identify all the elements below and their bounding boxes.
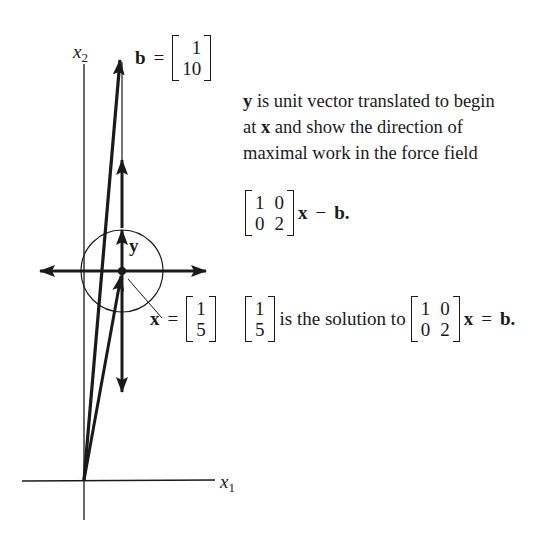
description-line-1: y is unit vector translated to begin [243,88,543,114]
b-component-1: 1 [182,37,201,58]
description-line-2: at x and show the direction of [243,114,543,140]
line2-text: and show the direction of [270,117,463,137]
x-symbol: x [150,308,160,330]
force-field-expression: 10 02 x − b. [245,190,350,236]
solution-text: is the solution to [280,308,406,330]
period: . [345,202,350,224]
y-symbol: y [243,91,252,111]
solution-component-1: 1 [255,298,265,319]
x-symbol: x [261,117,270,137]
b-symbol: b [500,308,511,330]
line1-text: is unit vector translated to begin [252,91,495,111]
solution-matrix: 10 02 [411,296,460,342]
equals-sign: = [154,47,165,69]
matrix-cell: 1 [255,192,265,213]
matrix-cell: 0 [255,213,265,234]
vector-y-label: y [129,236,139,255]
x2-axis-label: x2 [73,42,88,64]
x-definition: x = 1 5 [150,296,216,342]
x1-axis-label: x1 [220,472,235,494]
b-definition: b = 1 10 [135,35,211,81]
b-column-vector: 1 10 [172,35,211,81]
matrix-cell: 0 [275,192,285,213]
minus-sign: − [316,202,327,224]
description-line-3: maximal work in the force field [243,140,543,166]
x-column-vector: 1 5 [186,296,216,342]
solution-component-2: 5 [255,319,265,340]
force-field-matrix: 10 02 [245,190,294,236]
x-component-2: 5 [196,319,206,340]
matrix-cell: 1 [421,298,431,319]
x-symbol: x [298,202,308,224]
x-symbol: x [464,308,474,330]
period: . [510,308,515,330]
matrix-cell: 2 [440,319,450,340]
b-component-2: 10 [182,58,201,79]
x1-label-subscript: 1 [228,480,235,495]
solution-statement: 1 5 is the solution to 10 02 x = b. [245,296,515,342]
point-x [118,267,126,275]
equals-sign: = [168,308,179,330]
matrix-cell: 0 [421,319,431,340]
line2-prefix: at [243,117,261,137]
matrix-cell: 0 [440,298,450,319]
equals-sign: = [481,308,492,330]
b-symbol: b [135,47,146,69]
description-text: y is unit vector translated to begin at … [243,88,543,166]
x1-axis [22,480,215,481]
b-symbol: b [334,202,345,224]
vector-diagram [0,0,546,533]
x-component-1: 1 [196,298,206,319]
matrix-cell: 2 [275,213,285,234]
solution-vector: 1 5 [245,296,275,342]
x2-label-subscript: 2 [81,50,88,65]
